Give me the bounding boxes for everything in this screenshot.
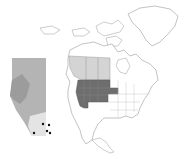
- range-map: [0, 0, 185, 154]
- central-america: [92, 138, 114, 153]
- range-light: [69, 56, 110, 80]
- greenland-outline: [128, 6, 178, 46]
- arctic-islands: [40, 20, 124, 46]
- north-america-map: [0, 0, 185, 154]
